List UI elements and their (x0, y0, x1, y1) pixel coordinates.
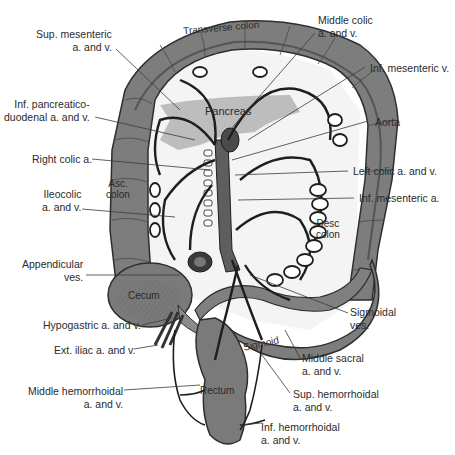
label-line1: Inf. mesenteric v. (370, 62, 449, 75)
label-line2: a. and v. (261, 434, 340, 447)
cecum-label: Cecum (128, 290, 160, 301)
label-inf-pancreaticoduodenal: Inf. pancreatico- duodenal a. and v. (4, 98, 90, 123)
label-line2: duodenal a. and v. (4, 111, 90, 124)
label-line2: a. and v. (42, 201, 82, 214)
label-line2: a. and v. (318, 27, 373, 40)
label-line1: Left colic a. and v. (353, 165, 437, 178)
label-line1: Inf. hemorrhoidal (261, 421, 340, 434)
label-line1: Aorta (375, 116, 400, 129)
label-line2: a. and v. (36, 41, 112, 54)
label-line1: Sup. mesenteric (36, 28, 112, 41)
label-appendicular: Appendicular ves. (22, 258, 83, 283)
label-line1: Middle colic (318, 14, 373, 27)
desc-colon-label-line1: Desc (316, 218, 340, 229)
label-line2: a. and v. (302, 365, 364, 378)
label-inf-mesenteric-a: Inf. mesenteric a. (359, 192, 440, 205)
desc-colon-label-line2: colon (316, 229, 340, 240)
label-aorta: Aorta (375, 116, 400, 129)
colon-vascular-diagram: Transverse colon Pancreas Asc. colon Des… (0, 0, 455, 455)
label-line2: a. and v. (293, 401, 379, 414)
label-middle-hemorrhoidal: Middle hemorrhoidal a. and v. (28, 385, 123, 410)
label-line1: Inf. pancreatico- (4, 98, 90, 111)
rectum-label: Rectum (200, 385, 234, 396)
label-line2: ves. (350, 319, 396, 332)
label-sigmoidal: Sigmoidal ves. (350, 306, 396, 331)
label-middle-colic: Middle colic a. and v. (318, 14, 373, 39)
label-sup-hemorrhoidal: Sup. hemorrhoidal a. and v. (293, 388, 379, 413)
pancreas-label: Pancreas (205, 106, 251, 117)
label-line1: Right colic a. (32, 153, 92, 166)
desc-colon-label: Desc colon (316, 218, 340, 240)
label-right-colic: Right colic a. (32, 153, 92, 166)
label-line1: Sup. hemorrhoidal (293, 388, 379, 401)
label-ileocolic: Ileocolic a. and v. (42, 188, 82, 213)
label-line1: Sigmoidal (350, 306, 396, 319)
label-inf-hemorrhoidal: Inf. hemorrhoidal a. and v. (261, 421, 340, 446)
asc-colon-label-line1: Asc. (106, 178, 130, 189)
asc-colon-label-line2: colon (106, 189, 130, 200)
label-line2: ves. (22, 271, 83, 284)
label-hypogastric: Hypogastric a. and v. (43, 319, 141, 332)
label-line1: Middle hemorrhoidal (28, 385, 123, 398)
label-line1: Middle sacral (302, 352, 364, 365)
label-line2: a. and v. (28, 398, 123, 411)
label-left-colic: Left colic a. and v. (353, 165, 437, 178)
label-line1: Ileocolic (42, 188, 82, 201)
label-line1: Ext. iliac a. and v. (54, 344, 136, 357)
label-middle-sacral: Middle sacral a. and v. (302, 352, 364, 377)
label-sup-mesenteric: Sup. mesenteric a. and v. (36, 28, 112, 53)
label-line1: Inf. mesenteric a. (359, 192, 440, 205)
label-ext-iliac: Ext. iliac a. and v. (54, 344, 136, 357)
label-line1: Appendicular (22, 258, 83, 271)
asc-colon-label: Asc. colon (106, 178, 130, 200)
label-line1: Hypogastric a. and v. (43, 319, 141, 332)
label-inf-mesenteric-v: Inf. mesenteric v. (370, 62, 449, 75)
